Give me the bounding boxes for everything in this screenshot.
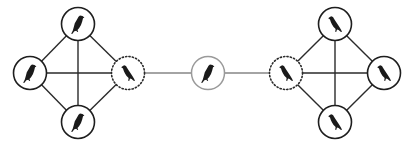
node-l-bottom [62, 106, 95, 139]
edge-R-gateway-R-bottom [298, 85, 324, 111]
edge-L-bottom-L-gateway [90, 85, 116, 111]
node-r-right [368, 57, 401, 90]
node-l-gateway [112, 57, 145, 90]
node-r-bottom [319, 106, 352, 139]
node-r-gateway [270, 57, 303, 90]
node-center [192, 57, 225, 90]
edge-L-top-L-gateway [90, 36, 116, 62]
node-l-top [62, 8, 95, 41]
edge-R-right-R-bottom [347, 85, 373, 111]
edge-R-top-R-right [347, 36, 373, 62]
edge-L-top-L-left [42, 36, 67, 61]
node-l-left [14, 57, 47, 90]
edge-R-gateway-R-top [298, 36, 324, 62]
node-r-top [319, 8, 352, 41]
network-diagram [0, 0, 413, 150]
edge-L-left-L-bottom [42, 85, 67, 110]
